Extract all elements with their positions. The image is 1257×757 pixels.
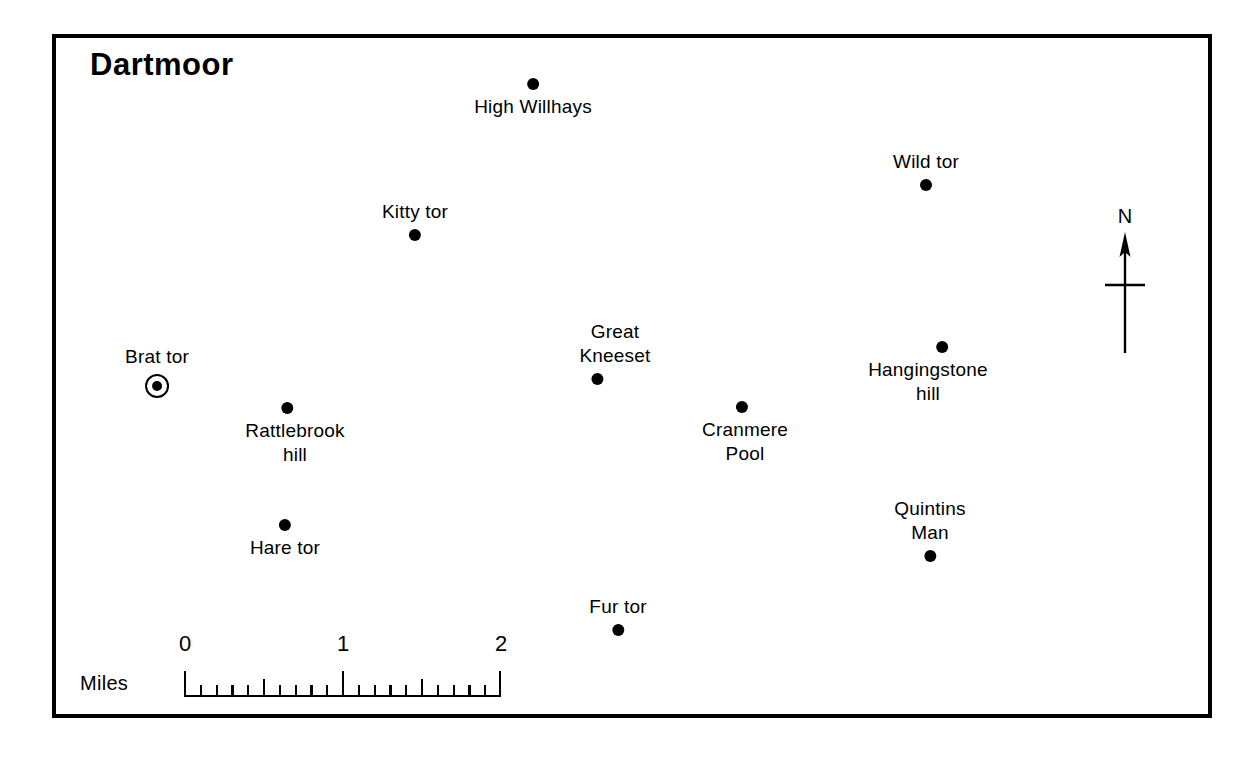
place-dot-icon [936, 341, 948, 353]
place-label-quintins-man-line1: Quintins [894, 497, 965, 521]
place-dot-icon [736, 401, 748, 413]
place-marker-brat-tor[interactable]: Brat tor [125, 345, 189, 398]
place-label-quintins-man-line2: Man [894, 521, 965, 545]
scale-tick-label-2: 2 [495, 632, 507, 656]
place-dot-icon [920, 179, 932, 191]
place-marker-hangingstone-hill[interactable]: Hangingstone hill [868, 341, 988, 406]
place-marker-high-willhays[interactable]: High Willhays [474, 78, 592, 119]
place-label-wild-tor: Wild tor [893, 150, 959, 174]
place-label-great-kneeset-line2: Kneeset [579, 344, 650, 368]
place-label-brat-tor: Brat tor [125, 345, 189, 369]
place-ringed-dot-icon [145, 374, 169, 398]
place-label-fur-tor: Fur tor [589, 595, 646, 619]
place-dot-icon [281, 402, 293, 414]
place-dot-icon [612, 624, 624, 636]
scale-tick-label-1: 1 [337, 632, 349, 656]
scale-bar: Miles 0 1 2 [80, 632, 520, 702]
place-marker-kitty-tor[interactable]: Kitty tor [382, 200, 448, 241]
place-label-cranmere-pool-line2: Pool [702, 442, 788, 466]
place-marker-wild-tor[interactable]: Wild tor [893, 150, 959, 191]
scale-bar-ruler-icon [80, 665, 520, 699]
place-label-kitty-tor: Kitty tor [382, 200, 448, 224]
place-marker-rattlebrook-hill[interactable]: Rattlebrook hill [245, 402, 344, 467]
place-label-rattlebrook-hill-line2: hill [245, 443, 344, 467]
place-marker-great-kneeset[interactable]: Great Kneeset [579, 320, 650, 385]
north-arrow-icon [1093, 205, 1157, 355]
place-label-rattlebrook-hill-line1: Rattlebrook [245, 419, 344, 443]
place-label-hangingstone-hill-line1: Hangingstone [868, 358, 988, 382]
place-label-great-kneeset-line1: Great [579, 320, 650, 344]
place-marker-cranmere-pool[interactable]: Cranmere Pool [702, 401, 788, 466]
place-marker-hare-tor[interactable]: Hare tor [250, 519, 320, 560]
place-dot-icon [409, 229, 421, 241]
place-dot-icon [591, 373, 603, 385]
place-dot-icon [527, 78, 539, 90]
north-arrow-label: N [1093, 205, 1157, 227]
place-marker-fur-tor[interactable]: Fur tor [589, 595, 646, 636]
place-label-cranmere-pool-line1: Cranmere [702, 418, 788, 442]
north-arrow: N [1093, 205, 1157, 355]
map-title: Dartmoor [90, 49, 234, 80]
place-marker-quintins-man[interactable]: Quintins Man [894, 497, 965, 562]
map-page: Dartmoor High Willhays Wild tor Kitty to… [0, 0, 1257, 757]
place-dot-icon [279, 519, 291, 531]
place-dot-icon [924, 550, 936, 562]
place-label-hangingstone-hill-line2: hill [868, 382, 988, 406]
place-label-hare-tor: Hare tor [250, 536, 320, 560]
place-label-high-willhays: High Willhays [474, 95, 592, 119]
scale-tick-label-0: 0 [179, 632, 191, 656]
